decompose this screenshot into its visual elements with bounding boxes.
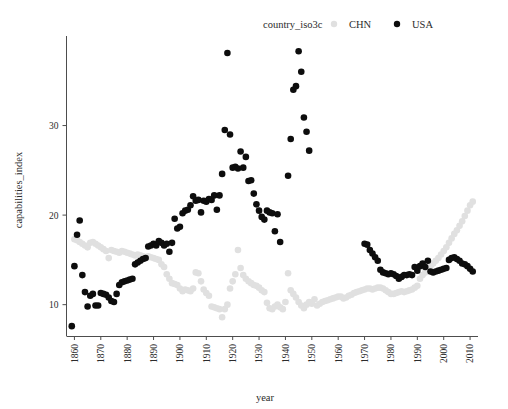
data-point <box>219 314 226 321</box>
legend-label-usa: USA <box>412 19 433 30</box>
data-point <box>287 136 294 143</box>
legend-label-chn: CHN <box>349 19 372 30</box>
y-tick-label: 10 <box>49 300 59 310</box>
x-tick-label: 1940 <box>281 344 291 363</box>
x-tick-label: 1990 <box>413 344 423 363</box>
data-point <box>301 114 308 121</box>
data-point <box>285 270 292 277</box>
data-point <box>237 148 244 155</box>
data-point <box>169 240 176 247</box>
x-tick-label: 1910 <box>202 344 212 363</box>
data-point <box>171 215 178 222</box>
data-point <box>161 264 168 271</box>
data-point <box>229 278 236 285</box>
data-point <box>425 257 432 264</box>
data-point <box>76 217 83 224</box>
data-point <box>219 171 226 178</box>
x-tick-label: 1870 <box>96 344 106 363</box>
data-point <box>90 291 97 298</box>
data-point <box>187 202 194 209</box>
y-axis-title: capabilities_index <box>13 151 24 228</box>
legend-swatch-chn <box>331 21 337 27</box>
data-point <box>261 289 268 296</box>
data-point <box>240 164 247 171</box>
data-point <box>232 271 239 278</box>
data-point <box>298 69 305 76</box>
data-point <box>274 211 281 218</box>
x-axis-title: year <box>256 392 275 403</box>
data-point <box>253 201 260 208</box>
data-point <box>374 257 381 264</box>
data-point <box>221 127 228 134</box>
data-point <box>216 192 223 199</box>
data-points-layer <box>68 48 476 330</box>
y-axis: 102030 <box>49 121 67 310</box>
data-point <box>306 147 313 154</box>
x-tick-label: 1920 <box>228 344 238 363</box>
data-point <box>250 190 257 197</box>
scatter-plot-figure: country_iso3c CHN USA 102030 18601870188… <box>0 0 508 409</box>
x-tick-label: 1970 <box>360 344 370 363</box>
data-point <box>227 285 234 292</box>
legend-title: country_iso3c <box>263 19 323 30</box>
x-tick-label: 2000 <box>439 344 449 363</box>
data-point <box>256 207 263 214</box>
data-point <box>443 265 450 272</box>
data-point <box>198 209 205 216</box>
data-point <box>414 283 421 290</box>
x-tick-label: 1860 <box>70 344 80 363</box>
x-tick-label: 1900 <box>175 344 185 363</box>
data-point <box>198 278 205 285</box>
series-chn <box>71 198 476 320</box>
data-point <box>195 270 202 277</box>
data-point <box>214 206 221 213</box>
data-point <box>282 299 289 306</box>
data-point <box>166 249 173 256</box>
data-point <box>243 154 250 161</box>
legend: country_iso3c CHN USA <box>263 19 433 30</box>
x-tick-label: 1960 <box>334 344 344 363</box>
data-point <box>142 255 149 262</box>
data-point <box>277 239 284 246</box>
x-tick-label: 1980 <box>386 344 396 363</box>
y-tick-label: 30 <box>49 121 59 131</box>
legend-swatch-usa <box>394 21 400 27</box>
data-point <box>469 268 476 275</box>
data-point <box>105 255 112 262</box>
data-point <box>261 216 268 223</box>
data-point <box>74 232 81 239</box>
data-point <box>285 172 292 179</box>
data-point <box>311 296 318 303</box>
x-tick-label: 2010 <box>465 344 475 363</box>
x-tick-label: 1930 <box>254 344 264 363</box>
data-point <box>113 291 120 298</box>
data-point <box>295 48 302 55</box>
data-point <box>190 285 197 292</box>
x-tick-label: 1950 <box>307 344 317 363</box>
data-point <box>227 131 234 138</box>
data-point <box>177 223 184 230</box>
data-point <box>206 292 213 299</box>
data-point <box>71 263 78 270</box>
data-point <box>248 177 255 184</box>
data-point <box>293 83 300 90</box>
chart-canvas: country_iso3c CHN USA 102030 18601870188… <box>0 0 508 409</box>
data-point <box>422 264 429 271</box>
data-point <box>68 323 75 330</box>
data-point <box>235 247 242 254</box>
data-point <box>224 301 231 308</box>
x-tick-label: 1880 <box>123 344 133 363</box>
data-point <box>224 50 231 57</box>
data-point <box>111 299 118 306</box>
data-point <box>272 228 279 235</box>
x-tick-label: 1890 <box>149 344 159 363</box>
data-point <box>79 272 86 279</box>
y-tick-label: 20 <box>49 211 59 221</box>
data-point <box>129 275 136 282</box>
data-point <box>237 265 244 272</box>
x-axis: 1860187018801890190019101920193019401950… <box>70 336 476 363</box>
data-point <box>84 303 91 310</box>
data-point <box>409 272 416 279</box>
data-point <box>95 302 102 309</box>
data-point <box>469 198 476 205</box>
